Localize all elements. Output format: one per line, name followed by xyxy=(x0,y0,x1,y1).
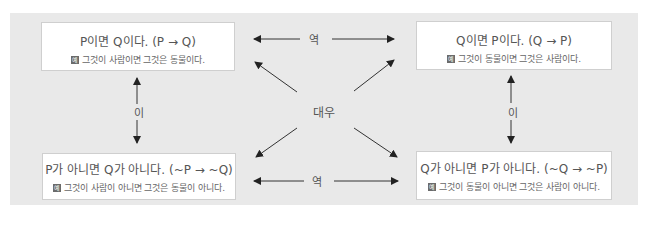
label-contrapositive-center: 대우 xyxy=(310,103,338,120)
contrapositive-example: 예그것이 동물이 아니면 그것은 사람이 아니다. xyxy=(417,180,611,193)
box-converse: Q이면 P이다. (Q → P) 예그것이 동물이면 그것은 사람이다. xyxy=(416,21,612,70)
box-contrapositive: Q가 아니면 P가 아니다. (~Q → ~P) 예그것이 동물이 아니면 그것… xyxy=(416,151,612,200)
converse-statement: Q이면 P이다. (Q → P) xyxy=(417,31,611,48)
conditional-example: 예그것이 사람이면 그것은 동물이다. xyxy=(42,53,234,66)
contrapositive-arrow-bl xyxy=(256,128,297,157)
example-badge-icon: 예 xyxy=(428,183,436,191)
example-badge-icon: 예 xyxy=(53,184,61,192)
inverse-example: 예그것이 사람이 아니면 그것은 동물이 아니다. xyxy=(43,181,235,194)
contrapositive-arrow-tl xyxy=(255,62,297,92)
label-converse-bottom: 역 xyxy=(309,173,325,189)
converse-example: 예그것이 동물이면 그것은 사람이다. xyxy=(417,52,611,65)
contrapositive-arrow-br xyxy=(354,128,397,157)
example-badge-icon: 예 xyxy=(71,56,79,64)
label-inverse-right: 이 xyxy=(505,104,521,120)
box-conditional: P이면 Q이다. (P → Q) 예그것이 사람이면 그것은 동물이다. xyxy=(41,22,235,71)
label-inverse-left: 이 xyxy=(131,104,147,120)
box-inverse: P가 아니면 Q가 아니다. (~P → ~Q) 예그것이 사람이 아니면 그것… xyxy=(42,153,236,200)
inverse-statement: P가 아니면 Q가 아니다. (~P → ~Q) xyxy=(43,160,235,177)
example-badge-icon: 예 xyxy=(447,55,455,63)
label-converse-top: 역 xyxy=(306,31,322,47)
conditional-statement: P이면 Q이다. (P → Q) xyxy=(42,32,234,49)
contrapositive-arrow-tr xyxy=(354,60,394,91)
contrapositive-statement: Q가 아니면 P가 아니다. (~Q → ~P) xyxy=(417,159,611,176)
